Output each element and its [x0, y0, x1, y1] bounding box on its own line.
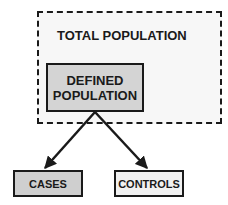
arrow-to-controls — [95, 112, 147, 168]
controls-box: CONTROLS — [114, 170, 184, 197]
controls-label: CONTROLS — [118, 178, 180, 190]
cases-box: CASES — [13, 170, 83, 197]
cases-label: CASES — [29, 178, 67, 190]
arrow-to-cases — [45, 112, 95, 168]
